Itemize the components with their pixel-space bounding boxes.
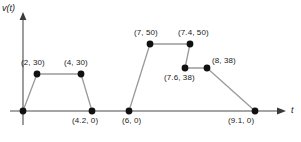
velocity-time-graph-figure: v(t) t (2, 30) (4, 30) (4.2, 0) (6, 0) (… [0,0,301,142]
x-axis-arrow-icon [277,107,286,114]
data-point-2-30 [34,71,41,78]
point-label-2-30: (2, 30) [21,58,45,67]
data-point-4-30 [78,71,85,78]
data-point-4.2-0 [89,108,96,115]
data-point-origin [20,108,27,115]
data-point-7.4-50 [187,41,194,48]
data-point-6-0 [126,108,133,115]
point-label-4.2-0: (4.2, 0) [72,116,98,125]
point-label-7-50: (7, 50) [134,28,158,37]
curve-segment-first-pulse [23,74,92,111]
data-point-8-38 [204,65,211,72]
data-point-7.6-38 [182,65,189,72]
point-label-7.6-38: (7.6, 38) [164,73,195,82]
x-axis-label: t [291,105,294,115]
y-axis-arrow-icon [20,12,27,20]
data-point-7-50 [147,41,154,48]
point-label-4-30: (4, 30) [64,58,88,67]
point-label-9.1-0: (9.1, 0) [228,116,254,125]
y-axis-label: v(t) [2,3,15,13]
point-label-8-38: (8, 38) [212,56,236,65]
point-label-7.4-50: (7.4, 50) [178,28,209,37]
data-point-9.1-0 [252,108,259,115]
point-label-6-0: (6, 0) [122,116,141,125]
plot-canvas [0,0,301,142]
